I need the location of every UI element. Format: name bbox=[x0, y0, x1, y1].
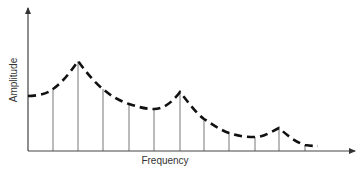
stems bbox=[53, 61, 305, 151]
x-axis-label: Frequency bbox=[141, 155, 188, 166]
envelope-curve bbox=[28, 61, 318, 146]
y-axis-label: Amplitude bbox=[8, 57, 19, 102]
spectrum-diagram: Frequency Amplitude bbox=[0, 0, 361, 171]
